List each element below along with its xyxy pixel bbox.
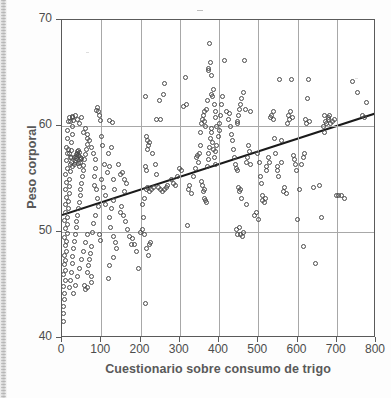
data-point [307,119,312,124]
data-point [204,200,209,205]
data-point [62,297,67,302]
data-point [248,162,253,167]
data-point [93,157,98,162]
data-point [264,168,269,173]
data-point [116,162,121,167]
data-point [239,96,244,101]
data-point [95,196,100,201]
data-point [256,217,261,222]
data-point [61,319,66,324]
x-tick-label: 200 [120,342,160,356]
data-point [61,284,66,289]
data-point [111,177,116,182]
data-point [82,283,87,288]
data-point [161,92,166,97]
data-point [198,130,203,135]
data-point [241,230,246,235]
x-axis-label: Cuestionario sobre consumo de trigo [61,362,375,376]
scan-speck [197,10,203,11]
data-point [93,213,98,218]
data-point [65,222,70,227]
scan-speck [355,78,358,79]
data-point [212,155,217,160]
data-point [271,117,276,122]
data-point [61,311,66,316]
data-point [123,219,128,224]
data-point [302,151,307,156]
data-point [259,181,264,186]
data-point [216,134,221,139]
data-point [89,274,94,279]
data-point [63,278,68,283]
data-point [108,225,113,230]
data-point [109,145,114,150]
data-point [98,118,103,123]
x-tick-label: 300 [159,342,199,356]
x-tick-label: 0 [41,342,81,356]
data-point [231,147,236,152]
data-point [184,102,189,107]
x-tick-label: 400 [198,342,238,356]
data-point [198,143,203,148]
data-point [70,261,75,266]
gridline-vertical [141,20,142,336]
data-point [209,73,214,78]
data-point [144,168,149,173]
data-point [226,117,231,122]
data-point [121,213,126,218]
data-point [111,234,116,239]
data-point [207,41,212,46]
data-point [140,202,145,207]
data-point [205,98,210,103]
data-point [293,162,298,167]
y-tick-label: 70 [14,11,52,25]
data-point [257,160,262,165]
data-point [193,166,198,171]
data-point [242,58,247,63]
data-point [297,187,302,192]
data-point [305,96,310,101]
data-point [290,115,295,120]
data-point [267,160,272,165]
data-point [244,202,249,207]
data-point [106,276,111,281]
data-point [279,138,284,143]
data-point [319,215,324,220]
data-point [258,174,263,179]
data-point [277,77,282,82]
data-point [235,168,240,173]
data-point [142,232,147,237]
data-point [78,193,83,198]
data-point [364,100,369,105]
data-point [162,81,167,86]
data-point [227,111,232,116]
data-point [342,196,347,201]
data-point [91,151,96,156]
data-point [89,244,94,249]
data-point [77,200,82,205]
data-point [111,255,116,260]
data-point [130,236,135,241]
data-point [67,191,72,196]
data-point [157,98,162,103]
data-point [273,151,278,156]
data-point [213,149,218,154]
data-point [317,183,322,188]
data-point [91,221,96,226]
data-point [98,238,103,243]
data-point [99,177,104,182]
data-point [202,187,207,192]
data-point [208,60,213,65]
data-point [146,253,151,258]
gridline-vertical [337,20,338,336]
data-point [263,196,268,201]
data-point [173,183,178,188]
data-point [247,149,252,154]
data-point [63,243,68,248]
data-point [109,206,114,211]
data-point [124,181,129,186]
data-point [61,304,66,309]
data-point [255,151,260,156]
data-point [66,206,71,211]
data-point [322,130,327,135]
